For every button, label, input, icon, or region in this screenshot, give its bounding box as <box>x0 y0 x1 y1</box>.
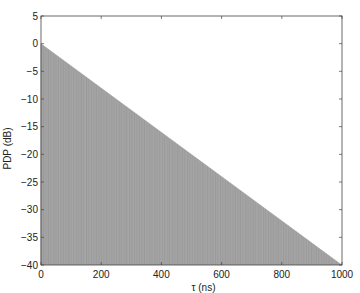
x-tick-label: 600 <box>213 269 230 280</box>
x-tick-label: 200 <box>93 269 110 280</box>
stem-series <box>41 44 342 265</box>
x-axis-label: τ (ns) <box>192 282 216 293</box>
x-tick-label: 1000 <box>331 269 354 280</box>
y-axis-label: PDP (dB) <box>2 127 13 169</box>
y-tick-label: −5 <box>27 66 39 77</box>
y-tick-labels: 50−5−10−15−20−25−30−35−40 <box>21 11 38 271</box>
y-tick-label: −10 <box>21 94 38 105</box>
y-tick-label: −30 <box>21 204 38 215</box>
y-tick-label: −20 <box>21 149 38 160</box>
y-tick-label: −25 <box>21 177 38 188</box>
y-tick-label: 5 <box>32 11 38 22</box>
y-tick-label: −15 <box>21 121 38 132</box>
x-tick-label: 800 <box>273 269 290 280</box>
y-tick-label: 0 <box>32 38 38 49</box>
y-tick-label: −35 <box>21 232 38 243</box>
pdp-chart: 02004006008001000 50−5−10−15−20−25−30−35… <box>0 0 360 293</box>
x-tick-labels: 02004006008001000 <box>38 269 353 280</box>
x-tick-label: 400 <box>153 269 170 280</box>
x-tick-label: 0 <box>38 269 44 280</box>
y-tick-label: −40 <box>21 260 38 271</box>
